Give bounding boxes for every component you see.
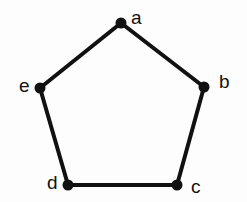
- edge-group: [40, 23, 204, 185]
- graph-node-c: [172, 180, 183, 191]
- pentagon-graph-canvas: [0, 0, 247, 202]
- graph-figure: abcde: [0, 0, 247, 202]
- graph-edge-bc: [177, 87, 204, 185]
- vertex-label-a: a: [131, 8, 142, 27]
- graph-node-e: [35, 83, 46, 94]
- graph-edge-ea: [40, 23, 121, 88]
- graph-edge-de: [40, 88, 68, 185]
- graph-edge-ab: [121, 23, 204, 87]
- vertex-label-e: e: [19, 76, 30, 95]
- vertex-label-b: b: [219, 72, 230, 91]
- graph-node-a: [116, 18, 127, 29]
- graph-node-b: [199, 82, 210, 93]
- graph-node-d: [63, 180, 74, 191]
- vertex-label-c: c: [191, 177, 201, 196]
- vertex-label-d: d: [47, 173, 58, 192]
